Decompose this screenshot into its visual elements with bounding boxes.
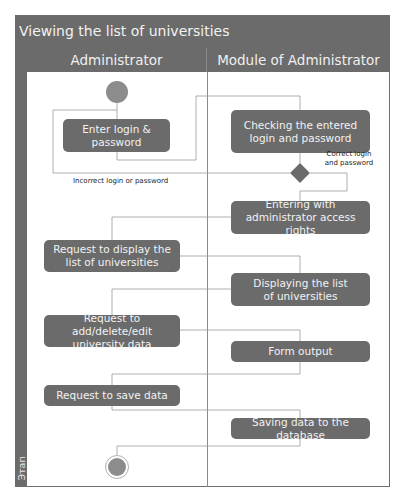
activity-enter-login: Enter login & password	[63, 119, 170, 152]
activity-request-display: Request to display the list of universit…	[44, 240, 180, 272]
final-node	[105, 455, 129, 479]
activity-request-save: Request to save data	[44, 385, 180, 406]
activity-form-output: Form output	[231, 341, 370, 362]
guard-incorrect: Incorrect login or password	[73, 177, 168, 186]
activity-check-login: Checking the entered login and password	[231, 110, 370, 153]
activity-save-db: Saving data to the database	[231, 418, 370, 439]
final-node-inner	[108, 458, 126, 476]
activity-display-list: Displaying the list of universities	[231, 273, 370, 306]
activity-enter-admin: Entering with administrator access right…	[231, 201, 370, 234]
activity-request-edit: Request to add/delete/edit university da…	[44, 315, 180, 347]
guard-correct: Correct login and password	[324, 150, 374, 168]
initial-node	[106, 81, 128, 103]
